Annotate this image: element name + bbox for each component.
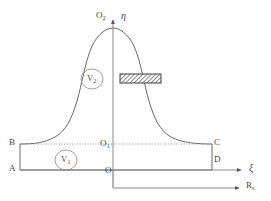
rs-axis-label: Rs (246, 181, 255, 190)
eta-axis-label: η (121, 11, 126, 21)
point-c-label: C (214, 138, 220, 147)
hatched-band (120, 74, 161, 83)
point-b-label: B (9, 138, 15, 147)
region-v1-label: V1 (61, 155, 70, 164)
point-o1-label: O1 (100, 139, 110, 148)
region-v2-label: V2 (87, 74, 96, 83)
point-a-label: A (9, 164, 16, 173)
figure-container: O2 η V2 B C O1 V1 D A O ξ Rs (0, 0, 271, 201)
point-d-label: D (214, 155, 221, 164)
profile-curve (20, 28, 212, 144)
xi-axis-label: ξ (249, 163, 253, 173)
diagram-canvas (0, 0, 271, 201)
point-o-label: O (105, 166, 112, 175)
point-o2-label: O2 (96, 11, 106, 20)
